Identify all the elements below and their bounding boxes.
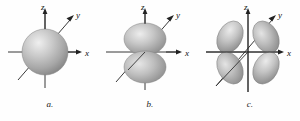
s-orbital-sphere: [22, 29, 68, 75]
panel-caption-c: c.: [200, 99, 300, 109]
y-axis-arrowhead: [269, 15, 277, 22]
y-axis-label: y: [175, 10, 180, 20]
d-orbital-lobe-upper-left: [211, 16, 248, 57]
d-orbital-diagram: z y x: [200, 0, 300, 100]
s-orbital-diagram: z y x: [0, 0, 100, 100]
panel-caption-a: a.: [0, 99, 100, 109]
z-axis-label: z: [40, 2, 45, 12]
panel-d-orbital: z y x c.: [200, 0, 300, 121]
y-axis-label: y: [277, 10, 282, 20]
y-axis-arrowhead: [167, 15, 175, 22]
panel-p-orbital: z y x b.: [100, 0, 200, 121]
x-axis-label: x: [184, 48, 189, 58]
y-axis-arrowhead: [67, 15, 75, 22]
z-axis-label: z: [243, 2, 248, 12]
z-axis-label: z: [140, 2, 145, 12]
orbital-figure: z y x a.: [0, 0, 300, 121]
panel-caption-b: b.: [100, 99, 200, 109]
y-axis-label: y: [75, 10, 80, 20]
x-axis-label: x: [84, 48, 89, 58]
p-orbital-diagram: z y x: [100, 0, 200, 100]
panel-s-orbital: z y x a.: [0, 0, 100, 121]
x-axis-label: x: [286, 48, 291, 58]
p-orbital-lobe-upper: [124, 23, 166, 55]
